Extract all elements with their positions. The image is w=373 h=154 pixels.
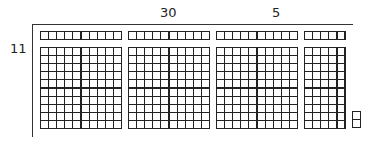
unit-cell (114, 113, 121, 120)
unit-cell (186, 56, 193, 63)
label-five: 5 (272, 5, 280, 20)
unit-cell (90, 97, 97, 104)
unit-cell (329, 32, 336, 39)
unit-cell (178, 32, 185, 39)
unit-cell (353, 112, 360, 119)
unit-cell (153, 32, 160, 39)
unit-cell (258, 121, 265, 128)
unit-cell (249, 89, 256, 96)
unit-cell (153, 113, 160, 120)
unit-cell (241, 48, 248, 55)
unit-cell (82, 80, 89, 87)
unit-cell (90, 72, 97, 79)
unit-cell (161, 105, 168, 112)
unit-cell (305, 48, 312, 55)
unit-cell (282, 105, 289, 112)
unit-cell (217, 72, 224, 79)
unit-cell (65, 113, 72, 120)
unit-cell (258, 64, 265, 71)
unit-cell (145, 48, 152, 55)
unit-cell (274, 72, 281, 79)
unit-cell (98, 80, 105, 87)
left-axis-line (32, 24, 33, 137)
unit-cell (321, 64, 328, 71)
unit-cell (129, 64, 136, 71)
unit-cell (106, 121, 113, 128)
unit-cell (49, 105, 56, 112)
unit-cell (137, 32, 144, 39)
unit-cell (338, 89, 345, 96)
unit-cell (241, 121, 248, 128)
unit-cell (217, 32, 224, 39)
unit-cell (290, 121, 297, 128)
unit-cell (137, 80, 144, 87)
unit-cell (266, 80, 273, 87)
unit-cell (258, 48, 265, 55)
unit-cell (194, 89, 201, 96)
unit-cell (241, 97, 248, 104)
unit-cell (114, 64, 121, 71)
unit-cell (186, 121, 193, 128)
unit-cell (153, 121, 160, 128)
unit-cell (313, 72, 320, 79)
unit-cell (170, 97, 177, 104)
unit-cell (153, 97, 160, 104)
unit-cell (266, 113, 273, 120)
block-hundred-3 (216, 47, 298, 129)
block-strip-3 (216, 31, 298, 40)
unit-cell (305, 64, 312, 71)
unit-cell (41, 72, 48, 79)
unit-cell (305, 72, 312, 79)
unit-cell (114, 97, 121, 104)
unit-cell (98, 64, 105, 71)
unit-cell (217, 121, 224, 128)
unit-cell (178, 72, 185, 79)
block-hundred-1 (40, 47, 122, 129)
unit-cell (329, 113, 336, 120)
unit-cell (225, 32, 232, 39)
unit-cell (338, 72, 345, 79)
unit-cell (233, 80, 240, 87)
unit-cell (90, 56, 97, 63)
unit-cell (321, 121, 328, 128)
unit-cell (329, 121, 336, 128)
unit-cell (194, 121, 201, 128)
unit-cell (82, 105, 89, 112)
unit-cell (313, 64, 320, 71)
unit-cell (258, 89, 265, 96)
unit-cell (73, 121, 80, 128)
unit-cell (266, 64, 273, 71)
unit-cell (338, 105, 345, 112)
unit-cell (73, 80, 80, 87)
unit-cell (114, 105, 121, 112)
unit-cell (98, 121, 105, 128)
unit-cell (217, 56, 224, 63)
unit-cell (233, 89, 240, 96)
unit-cell (266, 89, 273, 96)
unit-cell (282, 64, 289, 71)
unit-cell (313, 105, 320, 112)
unit-cell (282, 56, 289, 63)
unit-cell (282, 72, 289, 79)
unit-cell (82, 32, 89, 39)
unit-cell (161, 32, 168, 39)
unit-cell (145, 89, 152, 96)
unit-cell (65, 80, 72, 87)
unit-cell (217, 64, 224, 71)
unit-cell (98, 32, 105, 39)
unit-cell (266, 48, 273, 55)
unit-cell (313, 113, 320, 120)
unit-cell (321, 97, 328, 104)
unit-cell (258, 80, 265, 87)
unit-cell (329, 105, 336, 112)
unit-cell (202, 113, 209, 120)
unit-cell (186, 72, 193, 79)
unit-cell (217, 113, 224, 120)
unit-cell (217, 105, 224, 112)
unit-cell (73, 48, 80, 55)
unit-cell (82, 48, 89, 55)
unit-cell (98, 56, 105, 63)
unit-cell (106, 32, 113, 39)
unit-cell (114, 56, 121, 63)
block-fifty (304, 47, 346, 129)
